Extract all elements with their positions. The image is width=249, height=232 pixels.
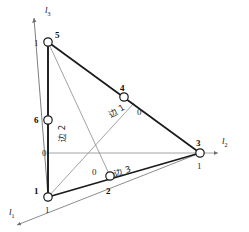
node-5[interactable] xyxy=(44,38,52,46)
node-label-2: 2 xyxy=(106,187,111,196)
node-2[interactable] xyxy=(106,172,114,180)
node-1[interactable] xyxy=(44,193,52,201)
value-label-zero-median-2: 0 xyxy=(92,168,97,177)
axis-label-l1: l1 xyxy=(9,208,15,219)
node-label-6: 6 xyxy=(34,116,39,125)
axis-label-l2: l2 xyxy=(222,137,228,148)
value-label-node-3: 1 xyxy=(197,162,202,171)
value-label-zero-left: 0 xyxy=(42,149,47,158)
axis-label-l2-sub: 2 xyxy=(225,142,228,148)
node-6[interactable] xyxy=(44,116,52,124)
node-label-5: 5 xyxy=(55,31,60,40)
axis-label-l3-sub: 3 xyxy=(48,11,51,17)
node-label-4: 4 xyxy=(120,84,125,93)
median-line-5-2 xyxy=(48,42,110,176)
node-3[interactable] xyxy=(196,149,204,157)
value-label-node-5: 1 xyxy=(34,39,39,48)
axis-label-l3: l3 xyxy=(45,6,51,17)
node-label-1: 1 xyxy=(34,187,39,196)
value-label-zero-median-4: 0 xyxy=(137,108,142,117)
node-label-3: 3 xyxy=(196,139,201,148)
value-label-node-1: 1 xyxy=(45,206,50,215)
median-line-1-4 xyxy=(48,103,134,197)
edge-label-2: 边 2 xyxy=(58,125,67,142)
axis-label-l1-sub: 1 xyxy=(12,213,15,219)
node-4[interactable] xyxy=(120,93,128,101)
